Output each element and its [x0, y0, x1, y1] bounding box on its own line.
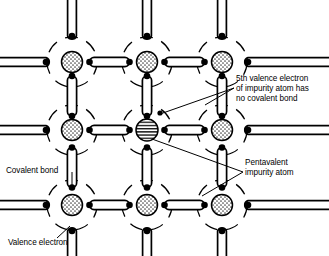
atom-silicon-r0c1 [137, 52, 158, 73]
atom-silicon-r1c0 [62, 120, 83, 141]
covalent-bond-label: Covalent bond [6, 166, 58, 176]
atom-silicon-r2c1 [137, 195, 158, 216]
atom-silicon-r2c0 [62, 195, 83, 216]
atom-silicon-r0c0 [62, 52, 83, 73]
doping-diagram-figure: 5th valence electron of impurity atom ha… [0, 0, 329, 256]
crystal-lattice-drawing [0, 0, 329, 256]
atom-silicon-r0c2 [212, 52, 233, 73]
atom-silicon-r2c2 [212, 195, 233, 216]
atom-silicon-r1c2 [212, 120, 233, 141]
5th-valence-electron-label: 5th valence electron of impurity atom ha… [236, 74, 309, 105]
leader-pentavalent [152, 139, 243, 172]
valence-electron-label: Valence electron [8, 238, 68, 248]
pentavalent-impurity-atom-label: Pentavalent impurity atom [245, 158, 294, 178]
atom-pentavalent-impurity [136, 119, 158, 141]
